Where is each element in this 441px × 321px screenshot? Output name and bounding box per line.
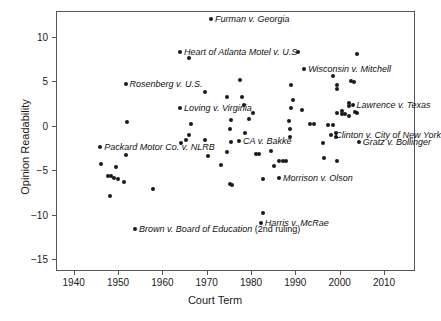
data-point <box>312 122 316 126</box>
data-point <box>335 111 339 115</box>
y-axis-tick-label: −15 <box>31 254 48 265</box>
data-point <box>108 194 112 198</box>
x-axis-tick <box>118 271 119 275</box>
y-axis-tick-label: 0 <box>42 120 48 131</box>
data-point <box>287 119 291 123</box>
data-point <box>99 162 103 166</box>
point-annotation: Loving v. Virginia <box>184 103 252 113</box>
point-annotation-suffix: (2nd ruling) <box>255 224 301 234</box>
data-point <box>229 140 233 144</box>
data-point <box>302 67 306 71</box>
data-point <box>247 117 251 121</box>
y-axis-tick <box>52 259 56 260</box>
data-point <box>291 98 295 102</box>
x-axis-tick <box>340 271 341 275</box>
data-point <box>178 106 182 110</box>
data-point <box>206 154 210 158</box>
point-annotation: CA v. Bakke <box>243 136 292 146</box>
data-point <box>124 82 128 86</box>
data-point <box>355 111 359 115</box>
data-point <box>133 227 137 231</box>
data-point <box>284 159 288 163</box>
point-annotation: Packard Motor Co. v. NLRB <box>104 142 214 152</box>
y-axis-tick-label: −10 <box>31 209 48 220</box>
data-point <box>122 180 126 184</box>
x-axis-tick <box>74 271 75 275</box>
y-axis-label: Opinion Readability <box>19 67 31 227</box>
data-point <box>209 17 213 21</box>
data-point <box>347 114 351 118</box>
data-point <box>355 52 359 56</box>
x-axis-tick-label: 1970 <box>196 277 218 288</box>
data-point <box>272 164 276 168</box>
x-axis-tick <box>162 271 163 275</box>
data-point <box>269 149 273 153</box>
data-point <box>335 87 339 91</box>
x-axis-tick-label: 1990 <box>284 277 306 288</box>
y-axis-tick <box>52 37 56 38</box>
data-point <box>322 156 326 160</box>
data-point <box>261 211 265 215</box>
point-annotation: Brown v. Board of Education (2nd ruling) <box>139 224 300 234</box>
data-point <box>351 103 355 107</box>
data-point <box>116 177 120 181</box>
data-point <box>288 127 292 131</box>
point-annotation: Heart of Atlanta Motel v. U.S <box>184 47 297 57</box>
x-axis-tick <box>207 271 208 275</box>
data-point <box>335 159 339 163</box>
x-axis-tick <box>251 271 252 275</box>
y-axis-tick <box>52 126 56 127</box>
y-axis-tick <box>52 215 56 216</box>
point-annotation: Gratz v. Bollinger <box>363 137 431 147</box>
data-point <box>98 145 102 149</box>
data-point <box>329 133 333 137</box>
data-point <box>352 80 356 84</box>
point-annotation: Wisconsin v. Mitchell <box>308 64 391 74</box>
x-axis-tick-label: 1980 <box>240 277 262 288</box>
data-point <box>326 123 330 127</box>
x-axis-tick <box>384 271 385 275</box>
point-annotation: Morrison v. Olson <box>283 173 353 183</box>
point-annotation: Furman v. Georgia <box>215 14 289 24</box>
y-axis-tick <box>52 170 56 171</box>
data-point <box>240 95 244 99</box>
data-point <box>238 78 242 82</box>
x-axis-tick-label: 1950 <box>107 277 129 288</box>
x-axis-tick-label: 1960 <box>151 277 173 288</box>
data-point <box>151 187 155 191</box>
x-axis-tick <box>295 271 296 275</box>
point-annotation: Lawrence v. Texas <box>357 100 431 110</box>
data-point <box>300 108 304 112</box>
data-point <box>257 152 261 156</box>
data-point <box>124 153 128 157</box>
point-annotation: Rosenberg v. U.S. <box>130 79 203 89</box>
data-point <box>321 141 325 145</box>
data-point <box>331 123 335 127</box>
data-point <box>189 122 193 126</box>
data-point <box>219 163 223 167</box>
data-point <box>114 165 118 169</box>
y-axis-tick <box>52 81 56 82</box>
data-point <box>225 150 229 154</box>
x-axis-tick-label: 1940 <box>63 277 85 288</box>
data-point <box>277 176 281 180</box>
x-axis-label: Court Term <box>0 294 430 306</box>
data-point <box>229 118 233 122</box>
data-point <box>289 106 293 110</box>
data-point <box>187 133 191 137</box>
data-point <box>237 139 241 143</box>
data-point <box>125 120 129 124</box>
data-point <box>357 140 361 144</box>
x-axis-tick-label: 2010 <box>373 277 395 288</box>
data-point <box>178 50 182 54</box>
data-point <box>225 95 229 99</box>
data-point <box>230 183 234 187</box>
data-point <box>261 177 265 181</box>
data-point <box>289 83 293 87</box>
x-axis-tick-label: 2000 <box>329 277 351 288</box>
y-axis-tick-label: 5 <box>42 76 48 87</box>
data-point <box>203 90 207 94</box>
y-axis-tick-label: 10 <box>37 31 48 42</box>
y-axis-tick-label: −5 <box>37 165 48 176</box>
